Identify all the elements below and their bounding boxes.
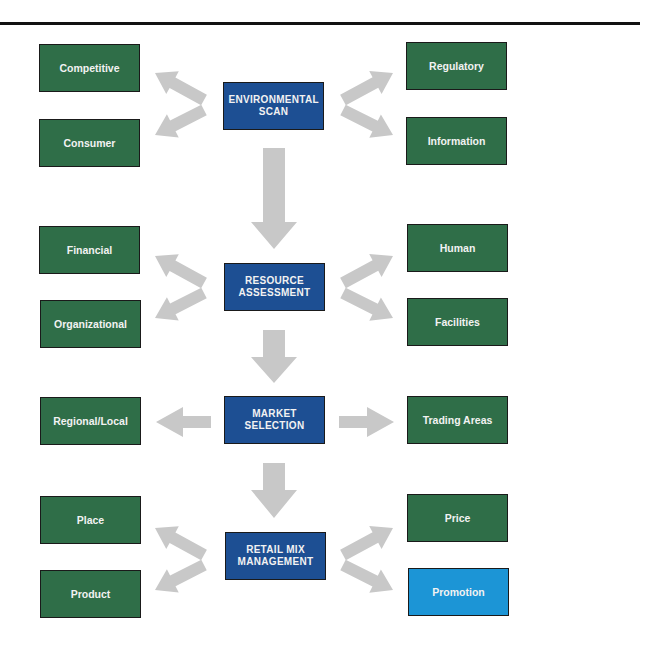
box-label: Trading Areas — [423, 414, 493, 426]
box-label: Regional/Local — [53, 415, 128, 427]
box-label: Promotion — [432, 586, 485, 598]
factor-box-place: Place — [40, 496, 141, 544]
box-label: Financial — [67, 244, 113, 256]
factor-box-regional-local: Regional/Local — [40, 397, 141, 445]
arrow-up-right-icon — [340, 254, 393, 288]
down-arrow-icon — [251, 330, 297, 383]
arrow-down-left-icon — [155, 105, 207, 138]
factor-box-product: Product — [40, 570, 141, 618]
factor-box-consumer: Consumer — [39, 119, 140, 167]
box-label: ENVIRONMENTAL SCAN — [229, 94, 319, 118]
factor-box-trading-areas: Trading Areas — [407, 396, 508, 444]
box-label: Human — [440, 242, 476, 254]
box-label: Consumer — [64, 137, 116, 149]
stage-box-environmental-scan: ENVIRONMENTAL SCAN — [223, 82, 324, 130]
arrow-down-right-icon — [340, 105, 393, 138]
down-arrow-icon — [251, 463, 297, 518]
factor-box-regulatory: Regulatory — [406, 42, 507, 90]
box-label: Organizational — [54, 318, 127, 330]
stage-box-resource-assessment: RESOURCE ASSESSMENT — [224, 263, 325, 311]
factor-box-facilities: Facilities — [407, 298, 508, 346]
arrow-up-right-icon — [340, 526, 393, 560]
factor-box-price: Price — [407, 494, 508, 542]
box-label: Product — [71, 588, 111, 600]
box-label: Competitive — [59, 62, 119, 74]
stage-box-retail-mix-management: RETAIL MIX MANAGEMENT — [225, 532, 326, 580]
arrow-up-left-icon — [155, 71, 207, 105]
arrow-up-left-icon — [155, 254, 207, 288]
box-label: RETAIL MIX MANAGEMENT — [236, 544, 316, 568]
box-label: Place — [77, 514, 104, 526]
stage-box-market-selection: MARKET SELECTION — [224, 396, 325, 444]
left-arrow-icon — [156, 407, 211, 437]
factor-box-financial: Financial — [39, 226, 140, 274]
right-arrow-icon — [339, 407, 394, 437]
factor-box-human: Human — [407, 224, 508, 272]
box-label: Regulatory — [429, 60, 484, 72]
box-label: MARKET SELECTION — [240, 408, 310, 432]
box-label: Price — [445, 512, 471, 524]
box-label: Facilities — [435, 316, 480, 328]
arrow-up-right-icon — [340, 71, 393, 105]
arrow-down-right-icon — [340, 560, 393, 593]
box-label: Information — [428, 135, 486, 147]
arrow-down-right-icon — [340, 288, 393, 321]
arrow-down-left-icon — [155, 288, 207, 321]
factor-box-promotion: Promotion — [408, 568, 509, 616]
box-label: RESOURCE ASSESSMENT — [235, 275, 315, 299]
factor-box-competitive: Competitive — [39, 44, 140, 92]
down-arrow-icon — [251, 148, 297, 249]
arrow-up-left-icon — [155, 526, 207, 560]
factor-box-information: Information — [406, 117, 507, 165]
factor-box-organizational: Organizational — [40, 300, 141, 348]
arrow-down-left-icon — [155, 560, 207, 593]
